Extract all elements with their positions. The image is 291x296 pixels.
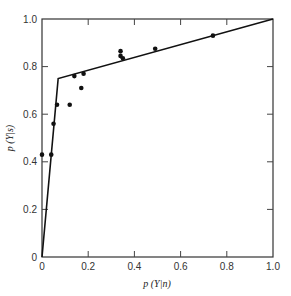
plot-frame xyxy=(42,19,273,257)
data-point xyxy=(72,74,77,79)
fitted-line xyxy=(42,19,273,257)
y-tick-label: 1.0 xyxy=(23,14,37,25)
data-point xyxy=(121,56,126,61)
x-tick-label: 1.0 xyxy=(266,261,280,272)
data-point xyxy=(118,49,123,54)
y-tick-label: 0.2 xyxy=(23,204,37,215)
data-point xyxy=(51,121,56,126)
data-point xyxy=(79,86,84,91)
data-point xyxy=(81,71,86,76)
x-axis-label: p (Y|n) xyxy=(142,278,171,290)
data-point xyxy=(49,152,54,157)
data-point xyxy=(67,102,72,107)
x-tick-label: 0.4 xyxy=(127,261,141,272)
y-tick-label: 0.4 xyxy=(23,156,37,167)
x-tick-label: 0 xyxy=(39,261,45,272)
series xyxy=(40,19,273,257)
x-tick-label: 0.6 xyxy=(174,261,188,272)
y-tick-label: 0.8 xyxy=(23,61,37,72)
data-point xyxy=(40,152,45,157)
y-tick-label: 0 xyxy=(31,252,37,263)
y-tick-label: 0.6 xyxy=(23,109,37,120)
x-tick-label: 0.8 xyxy=(220,261,234,272)
chart: 00.20.40.60.81.000.20.40.60.81.0 p (Y|n)… xyxy=(0,0,291,296)
y-axis-label: p (Y|s) xyxy=(4,124,16,152)
data-point xyxy=(211,33,216,38)
ticks xyxy=(42,19,273,257)
data-point xyxy=(153,46,158,51)
data-point xyxy=(55,102,60,107)
x-tick-label: 0.2 xyxy=(81,261,95,272)
axes xyxy=(42,19,273,257)
